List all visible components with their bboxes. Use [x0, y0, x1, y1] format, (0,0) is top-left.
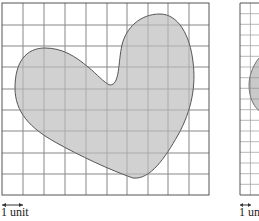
figure-coarse-grid: 1 unit	[0, 0, 215, 200]
grid-lines	[240, 3, 259, 195]
heart-on-coarse-grid	[0, 0, 215, 200]
figure-fine-grid: 1 unit	[238, 0, 259, 200]
heart-shape	[15, 14, 194, 178]
heart-on-fine-grid	[238, 0, 259, 200]
unit-label: 1 unit	[239, 205, 259, 220]
unit-label: 1 unit	[1, 205, 29, 220]
